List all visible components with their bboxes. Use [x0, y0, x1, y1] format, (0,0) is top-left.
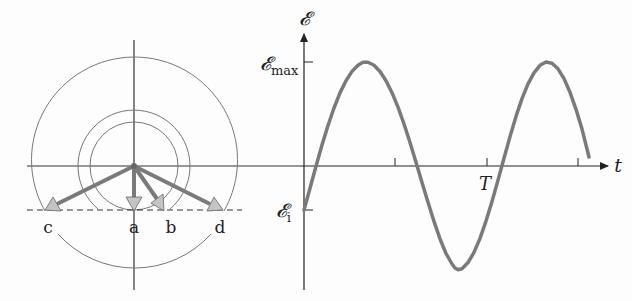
- time-axis-label: t: [614, 154, 622, 176]
- label-b: b: [166, 217, 177, 237]
- emf-axis-label: 𝓔: [299, 7, 315, 29]
- phasor-diagram: c a b d: [27, 40, 300, 290]
- phasor-c: [45, 166, 134, 211]
- figure: c a b d 𝓔 t 𝓔max 𝓔i: [0, 0, 632, 301]
- ei-label: 𝓔i: [276, 199, 292, 225]
- label-a: a: [129, 217, 139, 237]
- emf-waveform: 𝓔 t 𝓔max 𝓔i T: [260, 7, 622, 290]
- period-label: T: [479, 173, 493, 194]
- label-d: d: [215, 217, 226, 237]
- label-c: c: [43, 217, 53, 237]
- emax-label-subscript: max: [271, 63, 299, 78]
- ei-label-subscript: i: [287, 211, 291, 225]
- diagram-canvas: c a b d 𝓔 t 𝓔max 𝓔i: [0, 0, 632, 301]
- emax-label: 𝓔max: [260, 52, 299, 78]
